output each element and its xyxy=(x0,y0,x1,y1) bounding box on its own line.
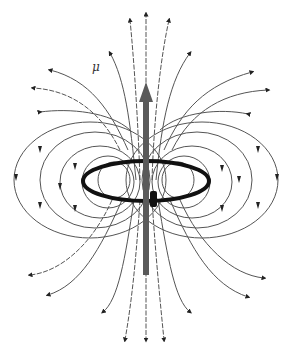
moment-arrow xyxy=(139,82,153,275)
moment-label: μ xyxy=(92,60,100,74)
wire-connector xyxy=(150,191,157,207)
magnetic-dipole-diagram xyxy=(0,0,291,353)
